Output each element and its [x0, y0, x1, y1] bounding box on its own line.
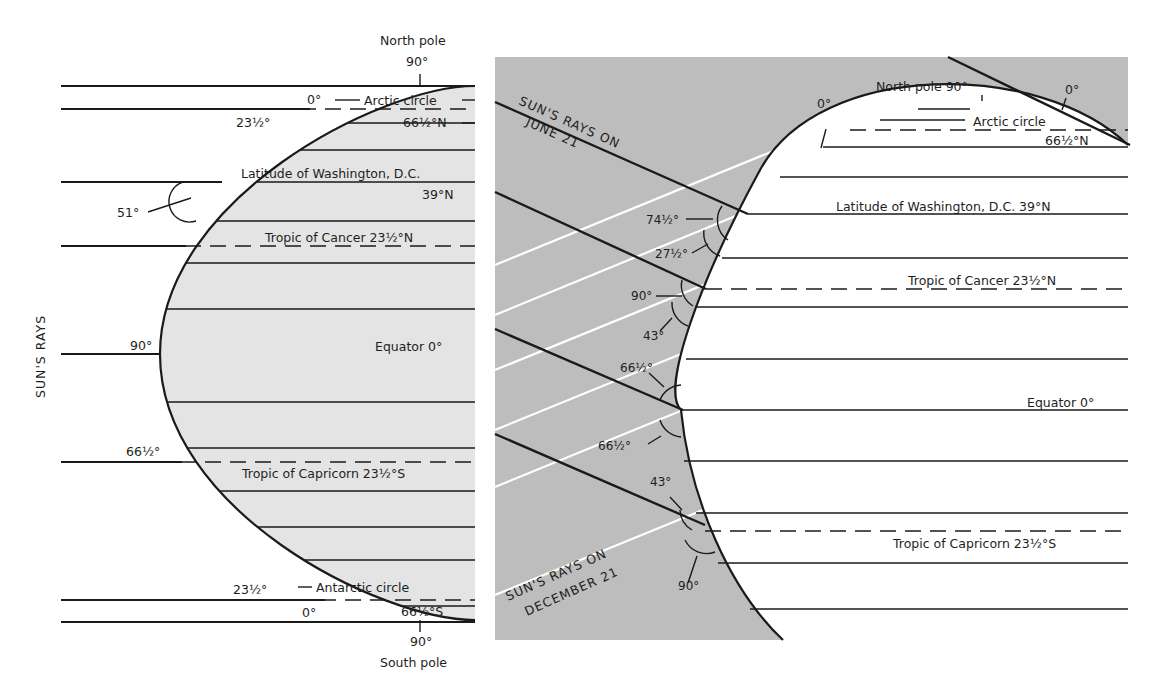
angle-capricorn: 66½°	[126, 444, 160, 459]
angle-equator-dec: 66½°	[598, 439, 631, 453]
right-equator-label: Equator 0°	[1027, 395, 1094, 410]
arctic-circle-label: Arctic circle	[364, 93, 437, 108]
angle-capricorn-dec: 90°	[678, 579, 699, 593]
north-pole-90-label: North pole 90°	[876, 79, 968, 94]
south-pole-label: South pole	[380, 655, 447, 670]
right-tropic-cancer-label: Tropic of Cancer 23½°N	[907, 273, 1056, 288]
right-washington-label: Latitude of Washington, D.C. 39°N	[836, 199, 1051, 214]
right-arctic-circle-label: Arctic circle	[973, 114, 1046, 129]
angle-north-23: 23½°	[236, 115, 270, 130]
washington-deg: 39°N	[422, 187, 454, 202]
antarctic-circle-deg: 66½°S	[401, 604, 443, 619]
right-tropic-capricorn-label: Tropic of Capricorn 23½°S	[892, 536, 1056, 551]
right-arctic-circle-deg: 66½°N	[1045, 133, 1089, 148]
angle-washington-june: 74½°	[646, 213, 679, 227]
angle-equator: 90°	[130, 338, 152, 353]
angle-south-23: 23½°	[233, 582, 267, 597]
left-globe-panel: North pole 90° 0° Arctic circle 23½° 66½…	[33, 33, 475, 670]
earth-sun-angle-diagram: North pole 90° 0° Arctic circle 23½° 66½…	[0, 0, 1153, 694]
north-pole-angle: 90°	[406, 54, 428, 69]
suns-rays-side-label: SUN'S RAYS	[33, 315, 48, 398]
angle-cancer-june: 90°	[631, 289, 652, 303]
arctic-circle-deg: 66½°N	[403, 115, 447, 130]
tropic-capricorn-label: Tropic of Capricorn 23½°S	[241, 466, 405, 481]
angle-arctic-june: 0°	[817, 96, 831, 111]
angle-washington: 51°	[117, 205, 139, 220]
antarctic-circle-label: Antarctic circle	[316, 580, 410, 595]
angle-south-zero: 0°	[302, 605, 316, 620]
south-pole-angle: 90°	[410, 634, 432, 649]
angle-capricorn-june: 43°	[650, 475, 671, 489]
angle-arctic-dec: 0°	[1065, 82, 1079, 97]
angle-cancer-dec: 43°	[643, 329, 664, 343]
angle-north-zero: 0°	[307, 92, 321, 107]
right-globe-panel: SUN'S RAYS ON JUNE 21 SUN'S RAYS ON DECE…	[495, 57, 1130, 640]
right-dashed-lines	[705, 130, 1128, 531]
washington-label: Latitude of Washington, D.C.	[241, 166, 420, 181]
tropic-cancer-label: Tropic of Cancer 23½°N	[264, 230, 413, 245]
angle-washington-dec: 27½°	[655, 247, 688, 261]
angle-arc-51	[169, 182, 196, 222]
north-pole-label: North pole	[380, 33, 446, 48]
equator-label: Equator 0°	[375, 339, 442, 354]
angle-equator-june: 66½°	[620, 361, 653, 375]
